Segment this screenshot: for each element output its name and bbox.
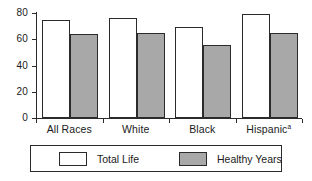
bar-group (42, 11, 98, 118)
y-tick-label: 0 (0, 113, 28, 123)
legend-entry-total-life: Total Life (59, 151, 139, 167)
bar-total-life-white (109, 18, 137, 118)
legend-label-total-life: Total Life (97, 153, 139, 165)
y-tick-label: 60 (0, 34, 28, 44)
legend-entry-healthy-years: Healthy Years (179, 151, 282, 167)
bar-healthy-years-black (203, 45, 231, 119)
y-tick-mark (32, 13, 37, 14)
bar-chart: 806040200 All RacesWhiteBlackHispanica T… (0, 0, 312, 181)
bar-group (175, 11, 231, 118)
category-label-white: White (103, 123, 170, 135)
legend-swatch-total-life (59, 152, 87, 166)
footnote-marker: a (287, 123, 291, 130)
y-tick-mark (32, 39, 37, 40)
y-tick-label: 80 (0, 8, 28, 18)
bar-total-life-black (175, 27, 203, 118)
legend-label-healthy-years: Healthy Years (217, 153, 282, 165)
category-label-all-races: All Races (36, 123, 103, 135)
bar-healthy-years-all-races (70, 34, 98, 118)
bar-group (109, 11, 165, 118)
bar-healthy-years-white (137, 33, 165, 118)
y-tick-label: 40 (0, 61, 28, 71)
plot-area: 806040200 All RacesWhiteBlackHispanica (0, 0, 312, 140)
y-tick-mark (32, 66, 37, 67)
bar-total-life-all-races (42, 20, 70, 118)
y-tick-mark (32, 92, 37, 93)
category-label-hispanic: Hispanica (236, 123, 303, 135)
chart-legend: Total Life Healthy Years (30, 145, 282, 172)
y-tick-label: 20 (0, 87, 28, 97)
x-tick-mark (302, 119, 303, 123)
bar-group (242, 11, 298, 118)
bar-healthy-years-hispanic (270, 33, 298, 118)
bar-total-life-hispanic (242, 14, 270, 118)
category-label-black: Black (169, 123, 236, 135)
legend-swatch-healthy-years (179, 152, 207, 166)
